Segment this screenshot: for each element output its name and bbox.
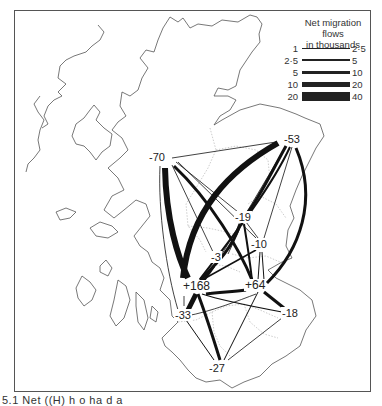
legend-to: 5 [352, 55, 357, 66]
legend-from: 2·5 [282, 55, 298, 66]
migration-map: Net migration flows in thousands 1 2·5 2… [0, 0, 382, 406]
figure-caption: 5.1 Net ((H) h o ha d a [2, 394, 123, 406]
legend-bar [302, 59, 350, 61]
node-label-minus33: -33 [174, 309, 192, 321]
migration-flows [160, 142, 306, 360]
legend-bar [302, 82, 350, 87]
legend-row: 2·5 5 [282, 55, 378, 65]
node-label-minus19: -19 [234, 211, 252, 223]
node-label-minus10: -10 [250, 238, 268, 250]
node-label-minus53: -53 [283, 133, 301, 145]
legend-bar [302, 71, 350, 74]
legend-to: 40 [352, 91, 363, 102]
node-label-plus64: +64 [244, 279, 266, 291]
legend-row: 20 40 [282, 91, 378, 101]
legend-from: 20 [282, 91, 298, 102]
node-label-plus168: +168 [182, 280, 211, 292]
legend-to: 2·5 [352, 43, 366, 54]
legend: Net migration flows in thousands 1 2·5 2… [302, 17, 378, 50]
legend-title-line1: Net migration flows [294, 17, 372, 39]
flow-53-to-168 [183, 143, 278, 278]
node-label-minus27: -27 [208, 362, 226, 374]
node-label-minus3: -3 [210, 251, 222, 263]
legend-row: 10 20 [282, 79, 378, 89]
legend-to: 10 [352, 67, 363, 78]
legend-from: 10 [282, 79, 298, 90]
legend-row: 1 2·5 [282, 43, 378, 53]
coastline [26, 15, 324, 388]
legend-from: 1 [282, 43, 298, 54]
node-label-minus70: -70 [148, 151, 166, 163]
node-label-minus18: -18 [281, 307, 299, 319]
legend-row: 5 10 [282, 67, 378, 77]
legend-bar [302, 48, 350, 49]
legend-to: 20 [352, 79, 363, 90]
legend-bar [302, 92, 350, 101]
legend-from: 5 [282, 67, 298, 78]
